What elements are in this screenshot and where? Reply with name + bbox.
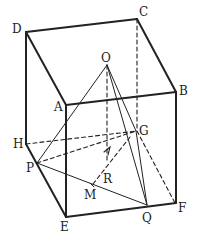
- label-D: D: [12, 22, 22, 36]
- geometry-diagram: D C B A O G H P R M Q F E: [0, 0, 200, 245]
- edge-GF: [137, 131, 175, 203]
- label-F: F: [178, 201, 186, 215]
- point-labels: D C B A O G H P R M Q F E: [12, 5, 188, 234]
- label-M: M: [84, 188, 96, 202]
- edge-HE: [26, 144, 66, 217]
- label-C: C: [139, 5, 148, 19]
- label-A: A: [53, 100, 63, 114]
- edge-CB: [137, 19, 176, 92]
- cuboid-figure: D C B A O G H P R M Q F E: [0, 0, 200, 245]
- label-H: H: [13, 137, 23, 151]
- label-G: G: [139, 124, 149, 138]
- label-Q: Q: [142, 211, 152, 225]
- label-P: P: [26, 161, 34, 175]
- edge-EF: [66, 203, 176, 217]
- edge-DC: [26, 19, 137, 32]
- thin-segments: [37, 65, 147, 205]
- label-E: E: [60, 220, 69, 234]
- label-R: R: [103, 172, 113, 186]
- edge-DA: [26, 32, 66, 105]
- segment-PG: [37, 131, 136, 163]
- edge-HG: [26, 131, 137, 144]
- segment-GQ: [136, 131, 147, 205]
- label-B: B: [179, 84, 188, 98]
- segment-OP: [37, 65, 107, 163]
- label-O: O: [101, 51, 111, 65]
